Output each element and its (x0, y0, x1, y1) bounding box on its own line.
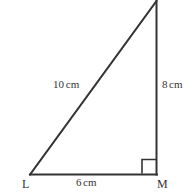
vertex-label-m: M (157, 178, 168, 190)
base-value: 6 (76, 176, 82, 188)
vertical-value: 8 (162, 78, 168, 90)
triangle-side-hypotenuse (30, 1, 157, 175)
right-angle-marker-icon (142, 160, 156, 174)
hypotenuse-unit: cm (66, 78, 80, 90)
vertical-unit: cm (169, 78, 183, 90)
base-unit: cm (83, 176, 97, 188)
hypotenuse-value: 10 (53, 78, 64, 90)
side-label-vertical: 8cm (162, 79, 183, 90)
side-label-base: 6cm (76, 177, 97, 188)
side-label-hypotenuse: 10cm (53, 79, 79, 90)
triangle-drawing (0, 0, 193, 196)
geometry-figure: 10cm 8cm 6cm L M (0, 0, 193, 196)
vertex-label-l: L (22, 178, 29, 190)
